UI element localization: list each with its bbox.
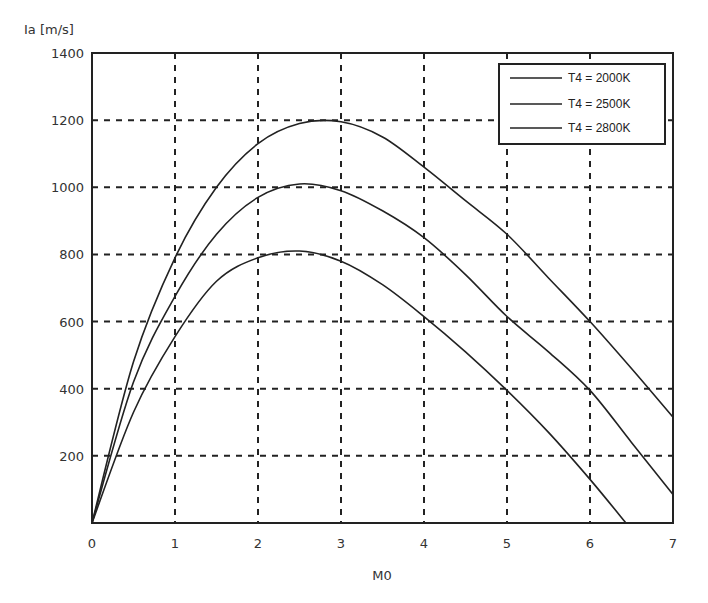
legend-label-2800k: T4 = 2800K: [568, 121, 630, 135]
y-tick-label: 1400: [51, 46, 84, 61]
x-tick-label: 4: [420, 536, 428, 551]
x-tick-label: 1: [171, 536, 179, 551]
y-tick-label: 400: [59, 382, 84, 397]
x-axis-ticks: 01234567: [88, 536, 677, 551]
x-tick-label: 2: [254, 536, 262, 551]
y-tick-label: 600: [59, 315, 84, 330]
x-tick-label: 7: [669, 536, 677, 551]
curve-42000k: [92, 251, 626, 523]
x-axis-label: M0: [372, 568, 392, 583]
legend-label-2000k: T4 = 2000K: [568, 71, 630, 85]
x-tick-label: 0: [88, 536, 96, 551]
line-chart: 200400600800100012001400 01234567 Ia [m/…: [0, 0, 708, 603]
y-tick-label: 1000: [51, 180, 84, 195]
curve-42500k: [92, 184, 673, 523]
legend: T4 = 2000K T4 = 2500K T4 = 2800K: [499, 64, 665, 144]
x-tick-label: 3: [337, 536, 345, 551]
y-axis-ticks: 200400600800100012001400: [51, 46, 84, 464]
y-tick-label: 1200: [51, 113, 84, 128]
y-tick-label: 800: [59, 247, 84, 262]
x-tick-label: 6: [586, 536, 594, 551]
y-axis-label: Ia [m/s]: [24, 22, 74, 37]
legend-label-2500k: T4 = 2500K: [568, 97, 630, 111]
x-tick-label: 5: [503, 536, 511, 551]
y-tick-label: 200: [59, 449, 84, 464]
